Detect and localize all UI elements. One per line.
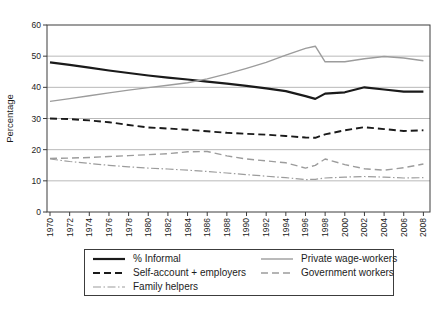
y-tick-label: 30 [32, 114, 42, 124]
line-chart-figure: 0102030405060197019721974197619781980198… [0, 0, 442, 312]
legend-item-self-account: Self-account + employers [92, 266, 260, 279]
legend-line-informal-icon [92, 254, 126, 264]
legend-item-government-workers: Government workers [260, 266, 397, 279]
x-tick-label: 1982 [163, 218, 173, 237]
x-tick-label: 1998 [320, 218, 330, 237]
x-tick-label: 1980 [143, 218, 153, 237]
x-tick-label: 1994 [281, 218, 291, 237]
series-line-3 [50, 152, 423, 171]
series-line-1 [50, 46, 423, 101]
legend-item-informal: % Informal [92, 252, 260, 265]
x-tick-label: 1970 [45, 218, 55, 237]
x-tick-label: 1974 [84, 218, 94, 237]
legend-line-self-account-icon [92, 268, 126, 278]
x-tick-label: 2006 [399, 218, 409, 237]
x-tick-label: 1988 [222, 218, 232, 237]
legend-item-family-helpers: Family helpers [92, 280, 260, 293]
legend: % Informal Private wage-workers Self-acc… [84, 249, 394, 296]
series-line-2 [50, 119, 423, 138]
x-tick-label: 1986 [202, 218, 212, 237]
x-tick-label: 1992 [261, 218, 271, 237]
legend-label-government-workers: Government workers [301, 266, 394, 279]
legend-line-family-helpers-icon [92, 282, 126, 292]
x-tick-label: 1996 [300, 218, 310, 237]
y-tick-label: 50 [32, 51, 42, 61]
x-tick-label: 1972 [65, 218, 75, 237]
y-tick-label: 40 [32, 82, 42, 92]
x-tick-label: 2000 [340, 218, 350, 237]
x-tick-label: 2004 [379, 218, 389, 237]
x-tick-label: 1978 [124, 218, 134, 237]
legend-label-informal: % Informal [133, 252, 181, 265]
x-tick-label: 1990 [242, 218, 252, 237]
x-tick-label: 2008 [418, 218, 428, 237]
y-tick-label: 0 [36, 207, 41, 217]
y-tick-label: 60 [32, 20, 42, 30]
legend-label-self-account: Self-account + employers [133, 266, 246, 279]
legend-label-family-helpers: Family helpers [133, 280, 198, 293]
y-axis-title: Percentage [4, 94, 15, 143]
x-tick-label: 1976 [104, 218, 114, 237]
legend-line-private-wage-workers-icon [260, 254, 294, 264]
y-tick-label: 20 [32, 145, 42, 155]
legend-label-private-wage-workers: Private wage-workers [301, 252, 397, 265]
x-tick-label: 1984 [183, 218, 193, 237]
x-tick-label: 2002 [359, 218, 369, 237]
legend-line-government-workers-icon [260, 268, 294, 278]
legend-item-private-wage-workers: Private wage-workers [260, 252, 397, 265]
y-tick-label: 10 [32, 176, 42, 186]
